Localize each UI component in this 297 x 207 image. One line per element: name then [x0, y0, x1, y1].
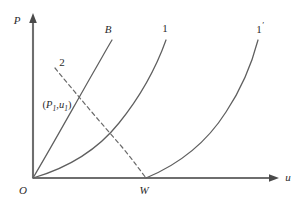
y-axis-arrow-icon — [29, 13, 37, 23]
curve-two-dashed — [55, 68, 146, 178]
x-axis-tick-label-w: W — [139, 185, 148, 196]
curve-label-two: 2 — [59, 57, 65, 68]
economics-figure: P u O W B 1 1′ 2 (P1,u1) — [0, 0, 297, 207]
point-label-close: ) — [68, 99, 72, 110]
x-axis-label: u — [285, 172, 291, 183]
y-axis-label: P — [14, 15, 21, 26]
curve-label-one-prime: 1′ — [256, 21, 263, 35]
curve-label-one-prime-mark: ′ — [262, 20, 264, 30]
curve-one-prime — [146, 40, 258, 178]
point-label-p1-u1: (P1,u1) — [43, 100, 72, 113]
curve-label-b: B — [105, 24, 112, 35]
curve-label-one: 1 — [162, 23, 168, 34]
origin-label: O — [19, 185, 27, 196]
x-axis-arrow-icon — [269, 174, 279, 182]
